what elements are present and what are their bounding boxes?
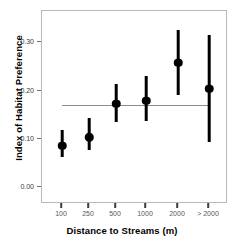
plot-inner xyxy=(42,11,226,202)
plot-area xyxy=(41,10,227,203)
y-tick-mark xyxy=(37,138,41,139)
y-tick-label: 0.00 xyxy=(10,183,34,190)
x-tick-label: > 2000 xyxy=(188,210,228,217)
y-tick-mark xyxy=(37,41,41,42)
y-tick-label: 0.20 xyxy=(10,86,34,93)
y-tick-label: 0.10 xyxy=(10,134,34,141)
x-tick-mark xyxy=(60,203,62,208)
data-point xyxy=(174,58,183,67)
x-tick-mark xyxy=(207,203,209,208)
y-tick-mark xyxy=(37,186,41,187)
data-point xyxy=(85,133,94,142)
x-tick-mark xyxy=(144,203,146,208)
x-tick-mark xyxy=(176,203,178,208)
y-tick-mark xyxy=(37,90,41,91)
data-point xyxy=(142,96,151,105)
data-point xyxy=(205,84,214,93)
data-point xyxy=(112,99,121,108)
x-tick-mark xyxy=(87,203,89,208)
habitat-preference-chart: Index of Habitat Preference 0.000.100.20… xyxy=(0,0,244,247)
y-tick-label: 0.30 xyxy=(10,38,34,45)
data-point xyxy=(58,141,67,150)
x-axis-title: Distance to Streams (m) xyxy=(0,225,244,236)
y-axis-title: Index of Habitat Preference xyxy=(10,0,28,198)
x-tick-mark xyxy=(114,203,116,208)
reference-line xyxy=(62,105,209,106)
